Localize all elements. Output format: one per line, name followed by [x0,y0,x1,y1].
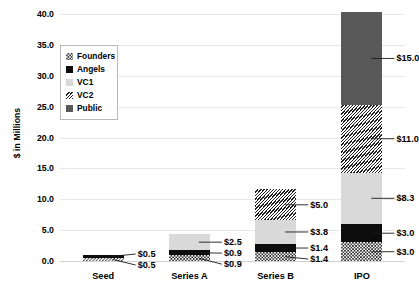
y-axis-tick-label: 20.0 [14,133,54,143]
bar-segment-angels [169,250,210,256]
x-axis-label-ipo: IPO [322,271,402,281]
data-label-angels: $0.5 [138,249,156,259]
bar-ipo [341,12,382,261]
y-axis-tick-label: 30.0 [14,71,54,81]
bar-segment-angels [341,224,382,243]
data-label-angels: $1.4 [310,243,328,253]
bar-segment-founders [341,242,382,261]
y-axis-tick-label: 5.0 [14,225,54,235]
y-axis-tick-label: 35.0 [14,40,54,50]
bar-segment-vc2 [341,105,382,173]
data-label-founders: $0.9 [224,259,242,269]
vc2-swatch [66,92,73,99]
legend-item-label: VC1 [77,78,93,87]
bar-segment-angels [83,255,124,258]
y-axis-tick-label: 40.0 [14,9,54,19]
legend-item-label: Public [77,104,102,113]
bar-series-a [169,234,210,261]
x-axis-label-series-a: Series A [149,271,229,281]
vc1-swatch [66,79,73,86]
angels-swatch [66,66,73,73]
clipped-header-text [44,0,384,2]
bar-segment-angels [255,244,296,253]
data-label-angels: $3.0 [396,228,414,238]
legend-item-vc2[interactable]: VC2 [66,89,110,102]
bar-segment-vc1 [169,234,210,249]
data-label-vc1: $2.5 [224,237,242,247]
bar-segment-founders [255,252,296,261]
founders-swatch [66,53,73,60]
legend-item-label: Founders [77,52,115,61]
bar-segment-vc2 [255,189,296,220]
data-label-vc1: $3.8 [310,227,328,237]
data-label-founders: $0.5 [138,260,156,270]
bar-segment-public [341,12,382,105]
legend-item-label: VC2 [77,91,93,100]
data-label-vc2: $11.0 [396,134,418,144]
chart-legend: FoundersAngelsVC1VC2Public [60,45,118,120]
y-axis-tick-label: 15.0 [14,163,54,173]
data-label-angels: $0.9 [224,248,242,258]
y-axis-tick-label: 10.0 [14,194,54,204]
bar-segment-founders [169,255,210,261]
y-axis-tick-label: 0.0 [14,256,54,266]
legend-item-founders[interactable]: Founders [66,50,110,63]
legend-item-angels[interactable]: Angels [66,63,110,76]
data-label-founders: $1.4 [310,254,328,264]
x-axis-label-seed: Seed [63,271,143,281]
x-axis-label-series-b: Series B [236,271,316,281]
legend-item-vc1[interactable]: VC1 [66,76,110,89]
data-label-vc1: $8.3 [396,193,414,203]
bar-segment-vc1 [255,220,296,243]
data-label-founders: $3.0 [396,247,414,257]
bar-seed [83,255,124,261]
bar-segment-founders [83,258,124,261]
data-label-public: $15.0 [396,53,419,63]
legend-item-label: Angels [77,65,105,74]
bar-series-b [255,189,296,261]
public-swatch [66,105,73,112]
data-label-vc2: $5.0 [310,200,328,210]
bar-segment-vc1 [341,173,382,224]
y-axis-tick-label: 25.0 [14,102,54,112]
legend-item-public[interactable]: Public [66,102,110,115]
